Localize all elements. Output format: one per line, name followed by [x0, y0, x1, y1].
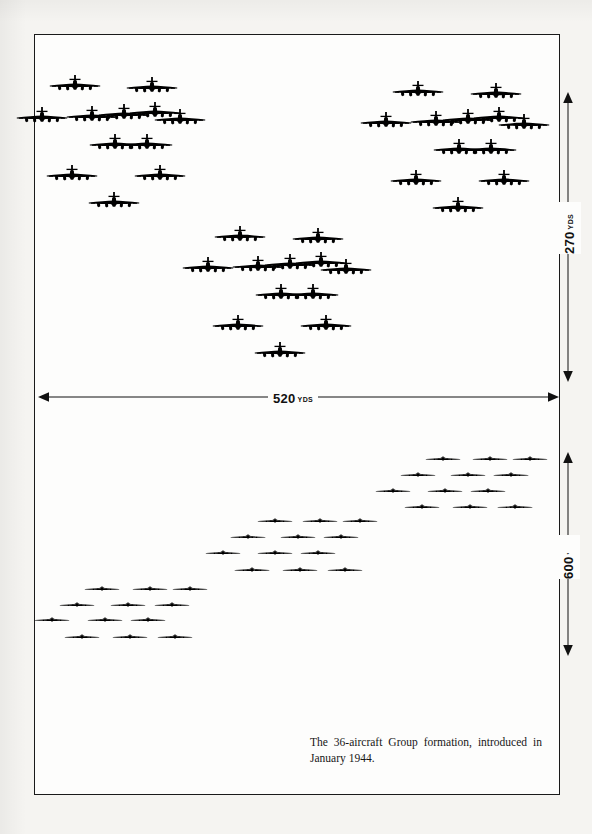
bomber-aircraft-icon: [427, 487, 463, 495]
bomber-aircraft-icon: [497, 503, 533, 511]
elevation-view: [0, 0, 592, 834]
depth-unit: YDS: [567, 214, 574, 230]
bomber-aircraft-icon: [452, 503, 488, 511]
bomber-aircraft-icon: [512, 455, 548, 463]
bomber-aircraft-icon: [400, 471, 436, 479]
figure-caption: The 36-aircraft Group formation, introdu…: [310, 735, 542, 766]
altitude-value: 600: [561, 556, 576, 579]
bomber-aircraft-icon: [472, 455, 508, 463]
width-dimension-label: 520YDS: [268, 390, 318, 406]
altitude-dimension-label: 600': [556, 535, 580, 579]
bomber-aircraft-icon: [404, 503, 440, 511]
depth-value: 270: [562, 231, 577, 254]
bomber-aircraft-icon: [375, 487, 411, 495]
scanned-page: 520YDS 270YDS 600' The 36-aircraft Group…: [0, 0, 592, 834]
altitude-unit: ': [566, 552, 573, 554]
bomber-aircraft-icon: [450, 471, 486, 479]
squadron-high-squadron-elevation: [0, 0, 592, 834]
bomber-aircraft-icon: [425, 455, 461, 463]
depth-dimension-label: 270YDS: [557, 202, 581, 254]
bomber-aircraft-icon: [493, 471, 529, 479]
bomber-aircraft-icon: [470, 487, 506, 495]
width-value: 520: [273, 391, 296, 406]
width-unit: YDS: [298, 396, 314, 403]
